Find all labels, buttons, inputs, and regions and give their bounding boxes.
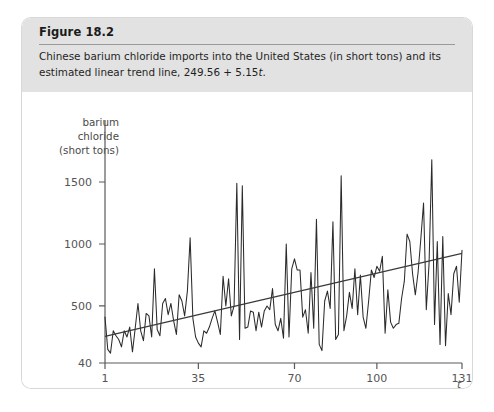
chart-plot-area: barium chloride (short tons) 40500100015… bbox=[22, 92, 472, 388]
figure-header: Figure 18.2 Chinese barium chloride impo… bbox=[22, 18, 472, 92]
x-tick-label: 35 bbox=[191, 372, 205, 385]
figure-caption: Chinese barium chloride imports into the… bbox=[39, 49, 457, 80]
y-tick-label: 1000 bbox=[64, 238, 92, 251]
y-tick-label: 500 bbox=[71, 300, 92, 313]
x-tick-label: 131 bbox=[452, 372, 473, 385]
y-axis-ticks: 4050010001500 bbox=[64, 176, 105, 370]
x-tick-label: 1 bbox=[102, 372, 109, 385]
figure-title: Figure 18.2 bbox=[39, 25, 114, 39]
figure-caption-period: . bbox=[263, 66, 266, 78]
y-axis-label-line-3: (short tons) bbox=[59, 144, 119, 156]
x-axis-ticks: 13570100131 bbox=[102, 363, 473, 385]
x-tick-label: 70 bbox=[287, 372, 301, 385]
y-tick-label: 1500 bbox=[64, 176, 92, 189]
y-axis-label-line-2: chloride bbox=[78, 130, 119, 142]
y-axis-label-line-1: barium bbox=[83, 116, 120, 128]
x-tick-label: 100 bbox=[366, 372, 387, 385]
figure-caption-text: Chinese barium chloride imports into the… bbox=[39, 50, 441, 78]
figure-panel: Figure 18.2 Chinese barium chloride impo… bbox=[22, 18, 472, 388]
y-tick-label: 40 bbox=[78, 357, 92, 370]
figure-title-divider bbox=[39, 44, 455, 45]
time-series-chart: barium chloride (short tons) 40500100015… bbox=[22, 92, 472, 388]
